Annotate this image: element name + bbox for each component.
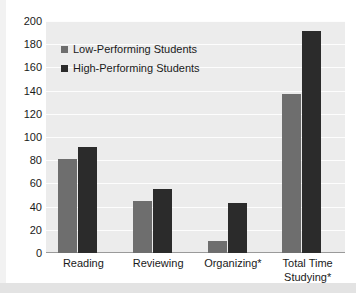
y-axis-labels: 200180160140120100806040200 <box>0 21 42 253</box>
y-axis-tick-label: 80 <box>0 155 42 166</box>
bar-low-performing <box>208 241 227 253</box>
x-axis-tick-label-line: Reading <box>46 256 121 270</box>
bar-group <box>270 21 345 253</box>
y-axis-tick-label: 100 <box>0 132 42 143</box>
bar-high-performing <box>153 189 172 253</box>
y-axis-tick-label: 200 <box>0 16 42 27</box>
page-bottom-band <box>0 283 356 293</box>
x-axis-tick-label-line: Studying* <box>270 270 345 284</box>
legend-item-low-performing: Low-Performing Students <box>61 44 200 55</box>
bar-high-performing <box>78 147 97 253</box>
bar-low-performing <box>58 159 77 253</box>
legend-swatch-icon-high <box>61 65 68 72</box>
y-axis-tick-label: 40 <box>0 202 42 213</box>
x-axis-tick-label-line: Total Time <box>270 256 345 270</box>
y-axis-tick-label: 0 <box>0 248 42 259</box>
y-axis-tick-label: 60 <box>0 178 42 189</box>
bar-low-performing <box>282 94 301 253</box>
chart-legend: Low-Performing Students High-Performing … <box>61 44 200 74</box>
y-axis-tick-label: 20 <box>0 225 42 236</box>
bar-group <box>196 21 271 253</box>
x-axis-tick-label-line: Organizing* <box>196 256 271 270</box>
y-axis-tick-label: 140 <box>0 86 42 97</box>
x-axis-tick-label-line: Reviewing <box>121 256 196 270</box>
legend-label-high: High-Performing Students <box>73 63 200 74</box>
y-axis-tick-label: 160 <box>0 62 42 73</box>
y-axis-tick-label: 180 <box>0 39 42 50</box>
x-axis-tick-label: Reviewing <box>121 256 196 270</box>
legend-label-low: Low-Performing Students <box>73 44 197 55</box>
x-axis-tick-label: Reading <box>46 256 121 270</box>
x-axis-tick-label: Organizing* <box>196 256 271 270</box>
y-axis-tick-label: 120 <box>0 109 42 120</box>
bar-chart: 200180160140120100806040200 ReadingRevie… <box>0 0 356 293</box>
bar-high-performing <box>228 203 247 253</box>
bar-high-performing <box>302 31 321 253</box>
bar-low-performing <box>133 201 152 253</box>
x-axis-tick-label: Total TimeStudying* <box>270 256 345 284</box>
legend-swatch-icon-low <box>61 46 68 53</box>
legend-item-high-performing: High-Performing Students <box>61 63 200 74</box>
